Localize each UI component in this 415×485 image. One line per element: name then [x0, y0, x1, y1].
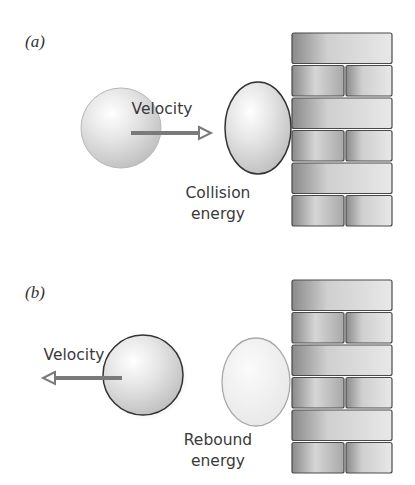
brick-half: [346, 66, 392, 97]
brick-half: [292, 131, 344, 162]
brick-half: [346, 131, 392, 162]
brick-full: [292, 280, 392, 311]
brick-half: [346, 443, 392, 474]
velocity-label-a: Velocity: [122, 99, 202, 120]
brick-full: [292, 33, 392, 64]
ball-squashed-a: [225, 82, 291, 174]
brick-wall-b: [292, 280, 392, 473]
energy-label-b-line2: energy: [168, 451, 268, 472]
diagram-canvas: [0, 0, 415, 485]
panel-label-b: (b): [25, 283, 45, 303]
brick-half: [346, 313, 392, 344]
brick-wall-a: [292, 33, 392, 226]
brick-half: [292, 196, 344, 227]
velocity-label-b: Velocity: [34, 345, 114, 366]
energy-label-b-line1: Rebound: [168, 430, 268, 451]
panel-label-a: (a): [25, 32, 45, 52]
brick-full: [292, 98, 392, 129]
energy-label-b: Rebound energy: [168, 430, 268, 472]
energy-label-a: Collision energy: [168, 183, 268, 225]
brick-full: [292, 345, 392, 376]
brick-full: [292, 410, 392, 441]
brick-half: [346, 196, 392, 227]
brick-half: [292, 443, 344, 474]
ball-rebounding-b: [103, 335, 183, 415]
brick-half: [292, 378, 344, 409]
brick-half: [346, 378, 392, 409]
energy-label-a-line1: Collision: [168, 183, 268, 204]
ball-ghost-b: [222, 338, 290, 426]
brick-full: [292, 163, 392, 194]
brick-half: [292, 313, 344, 344]
brick-half: [292, 66, 344, 97]
energy-label-a-line2: energy: [168, 204, 268, 225]
